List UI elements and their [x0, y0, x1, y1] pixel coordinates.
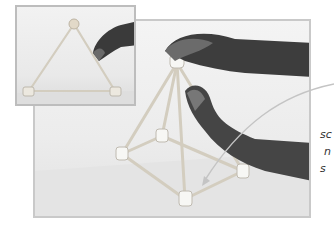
callout-arrow: [0, 0, 334, 226]
